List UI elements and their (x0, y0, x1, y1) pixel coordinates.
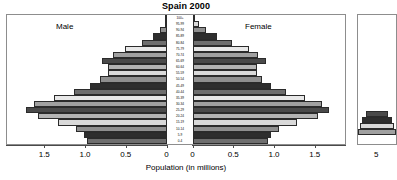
chart-title: Spain 2000 (0, 1, 372, 11)
x-tick-label: 0.5 (228, 150, 239, 159)
male-bar (87, 138, 167, 144)
x-tick (233, 145, 234, 148)
x-tick (126, 145, 127, 148)
x-tick (85, 145, 86, 148)
female-bar (193, 138, 268, 144)
x-tick-label: 0 (164, 150, 168, 159)
age-group-labels: 100+95-9990-9485-8980-8475-7970-7465-696… (167, 15, 193, 144)
x-axis-right (192, 145, 346, 146)
x-tick-label: 0.5 (120, 150, 131, 159)
x-tick-label: 0 (190, 150, 194, 159)
adjacent-plot-panel (357, 14, 397, 145)
x-axis-caption: Population (in millions) (0, 163, 372, 172)
x-tick (167, 145, 168, 148)
age-group-label: 0-4 (167, 138, 193, 144)
x-tick (193, 145, 194, 148)
x-tick-label: 1.0 (268, 150, 279, 159)
x-tick-label: 1.5 (309, 150, 320, 159)
x-tick-label: 1.5 (39, 150, 50, 159)
adjacent-panel-tick-label: 5 (374, 150, 378, 159)
x-axis-left (6, 145, 167, 146)
adjacent-bar (358, 129, 396, 135)
x-tick (315, 145, 316, 148)
x-tick (44, 145, 45, 148)
x-tick (274, 145, 275, 148)
x-tick-label: 1.0 (79, 150, 90, 159)
